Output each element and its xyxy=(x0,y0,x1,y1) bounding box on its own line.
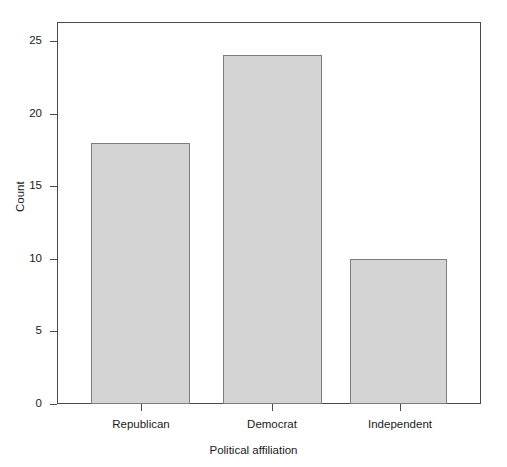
y-tick-label-0: 0 xyxy=(8,398,42,410)
y-tick-label-20: 20 xyxy=(8,108,42,120)
bars-layer xyxy=(57,22,481,404)
bar-republican xyxy=(91,143,190,404)
bar-democrat xyxy=(223,55,322,404)
y-axis-title-text: Count xyxy=(14,198,27,212)
bar-chart: 0 5 10 15 20 25 Republican Democrat Inde… xyxy=(0,0,507,467)
y-tick-10 xyxy=(50,259,57,260)
x-tick-democrat xyxy=(272,404,273,411)
bar-independent xyxy=(350,259,447,404)
x-tick-label-independent: Independent xyxy=(368,418,432,430)
x-axis-title: Political affiliation xyxy=(0,444,507,456)
y-tick-15 xyxy=(50,186,57,187)
y-tick-label-5: 5 xyxy=(8,325,42,337)
y-tick-0 xyxy=(50,404,57,405)
y-tick-25 xyxy=(50,41,57,42)
y-tick-label-10: 10 xyxy=(8,253,42,265)
x-tick-independent xyxy=(400,404,401,411)
y-tick-label-25: 25 xyxy=(8,35,42,47)
y-tick-20 xyxy=(50,114,57,115)
x-tick-republican xyxy=(141,404,142,411)
x-tick-label-democrat: Democrat xyxy=(247,418,297,430)
y-tick-5 xyxy=(50,331,57,332)
y-axis-title: Count xyxy=(14,198,27,212)
x-tick-label-republican: Republican xyxy=(112,418,170,430)
